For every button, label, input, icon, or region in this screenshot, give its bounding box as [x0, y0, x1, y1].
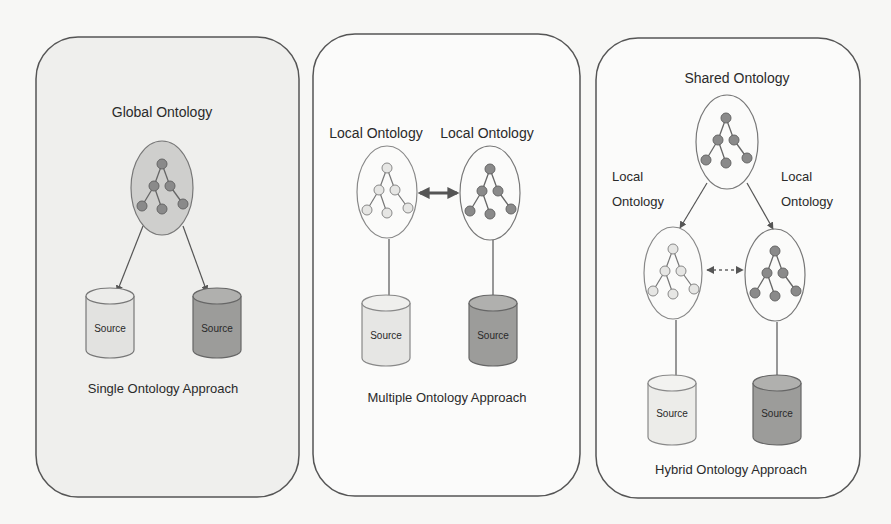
- local-ontology-label: Local Ontology: [329, 125, 422, 141]
- source-db-icon: Source: [469, 295, 517, 366]
- svg-text:Source: Source: [656, 408, 688, 419]
- source-db-icon: Source: [753, 375, 801, 445]
- source-db-icon: Source: [648, 375, 696, 445]
- local-ontology-label-right: Ontology: [781, 194, 834, 209]
- source-db-icon: Source: [193, 288, 241, 358]
- svg-text:Source: Source: [477, 330, 509, 341]
- source-db-icon: Source: [86, 288, 134, 358]
- panel-caption: Multiple Ontology Approach: [368, 390, 527, 405]
- panel-hybrid-ontology: Shared Ontology Local Ontology Local Ont…: [596, 38, 860, 498]
- local-ontology-label-left: Local: [612, 169, 643, 184]
- panel-single-ontology: Global Ontology Source Source Single Ont…: [36, 37, 299, 497]
- panel-multiple-ontology: Local Ontology Local Ontology Source Sou…: [313, 34, 580, 496]
- panel-caption: Single Ontology Approach: [88, 381, 238, 396]
- global-ontology-node: [131, 141, 193, 235]
- local-ontology-label-left: Ontology: [612, 194, 665, 209]
- svg-text:Source: Source: [370, 330, 402, 341]
- ontology-approaches-diagram: Global Ontology Source Source Single Ont…: [0, 0, 891, 524]
- local-ontology-label-right: Local: [781, 169, 812, 184]
- shared-ontology-label: Shared Ontology: [684, 70, 789, 86]
- global-ontology-label: Global Ontology: [112, 104, 212, 120]
- panel-caption: Hybrid Ontology Approach: [655, 462, 807, 477]
- svg-text:Source: Source: [761, 408, 793, 419]
- svg-text:Source: Source: [201, 323, 233, 334]
- svg-text:Source: Source: [94, 323, 126, 334]
- source-db-icon: Source: [362, 295, 410, 366]
- local-ontology-label: Local Ontology: [440, 125, 533, 141]
